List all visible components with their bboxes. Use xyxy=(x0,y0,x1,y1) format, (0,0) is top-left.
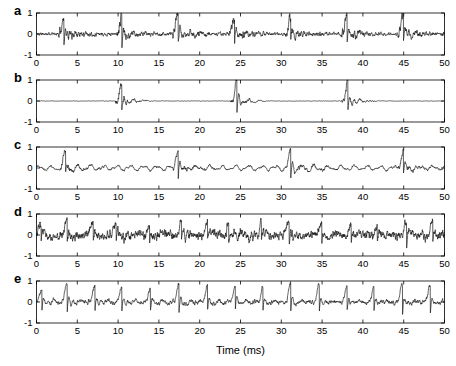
xtick-label-b-6: 30 xyxy=(276,124,287,135)
ytick-label-a-1: 0 xyxy=(27,28,32,39)
panel-letter-b: b xyxy=(14,70,22,85)
panel-b: 05101520253035404550-101b xyxy=(14,70,450,135)
panel-letter-e: e xyxy=(14,271,21,286)
ytick-label-b-0: -1 xyxy=(24,116,32,127)
xtick-label-d-4: 20 xyxy=(194,258,205,269)
signal-trace-d xyxy=(37,218,445,248)
xtick-label-c-10: 50 xyxy=(439,191,450,202)
panel-d: 05101520253035404550-101d xyxy=(14,204,450,269)
xtick-label-d-7: 35 xyxy=(317,258,328,269)
xtick-label-c-8: 40 xyxy=(358,191,369,202)
xtick-label-d-0: 0 xyxy=(34,258,39,269)
xtick-label-d-6: 30 xyxy=(276,258,287,269)
xtick-label-c-7: 35 xyxy=(317,191,328,202)
xtick-label-b-9: 45 xyxy=(398,124,409,135)
ytick-label-e-1: 0 xyxy=(27,296,32,307)
xtick-label-b-7: 35 xyxy=(317,124,328,135)
signal-trace-e xyxy=(37,282,445,315)
ytick-label-a-2: 1 xyxy=(27,7,32,18)
xtick-label-c-4: 20 xyxy=(194,191,205,202)
xtick-label-b-2: 10 xyxy=(113,124,124,135)
signal-trace-c xyxy=(37,148,445,178)
ytick-label-e-2: 1 xyxy=(27,275,32,286)
xtick-label-e-5: 25 xyxy=(235,325,246,336)
panel-letter-c: c xyxy=(14,137,21,152)
xtick-label-d-3: 15 xyxy=(154,258,165,269)
xtick-label-c-6: 30 xyxy=(276,191,287,202)
signal-trace-b xyxy=(37,80,445,112)
xtick-label-d-8: 40 xyxy=(358,258,369,269)
x-axis-title: Time (ms) xyxy=(216,344,265,356)
panel-letter-d: d xyxy=(14,204,22,219)
xtick-label-e-8: 40 xyxy=(358,325,369,336)
xtick-label-b-3: 15 xyxy=(154,124,165,135)
ytick-label-c-2: 1 xyxy=(27,141,32,152)
xtick-label-a-3: 15 xyxy=(154,57,165,68)
xtick-label-b-10: 50 xyxy=(439,124,450,135)
xtick-label-a-0: 0 xyxy=(34,57,39,68)
xtick-label-a-1: 5 xyxy=(75,57,80,68)
panel-letter-a: a xyxy=(14,3,22,18)
panel-e: 05101520253035404550-101e xyxy=(14,271,450,336)
xtick-label-e-4: 20 xyxy=(194,325,205,336)
xtick-label-c-1: 5 xyxy=(75,191,80,202)
xtick-label-e-7: 35 xyxy=(317,325,328,336)
ytick-label-c-0: -1 xyxy=(24,183,32,194)
ytick-label-d-1: 0 xyxy=(27,229,32,240)
xtick-label-a-2: 10 xyxy=(113,57,124,68)
xtick-label-e-2: 10 xyxy=(113,325,124,336)
xtick-label-c-2: 10 xyxy=(113,191,124,202)
xtick-label-b-1: 5 xyxy=(75,124,80,135)
ytick-label-b-2: 1 xyxy=(27,74,32,85)
xtick-label-e-0: 0 xyxy=(34,325,39,336)
xtick-label-e-9: 45 xyxy=(398,325,409,336)
xtick-label-a-10: 50 xyxy=(439,57,450,68)
xtick-label-b-0: 0 xyxy=(34,124,39,135)
ytick-label-d-2: 1 xyxy=(27,208,32,219)
xtick-label-a-5: 25 xyxy=(235,57,246,68)
xtick-label-c-0: 0 xyxy=(34,191,39,202)
xtick-label-d-9: 45 xyxy=(398,258,409,269)
signal-trace-a xyxy=(37,13,445,48)
xtick-label-d-5: 25 xyxy=(235,258,246,269)
xtick-label-a-9: 45 xyxy=(398,57,409,68)
signal-traces-figure: 05101520253035404550-101a051015202530354… xyxy=(0,0,456,366)
xtick-label-e-3: 15 xyxy=(154,325,165,336)
panel-c: 05101520253035404550-101c xyxy=(14,137,450,202)
xtick-label-b-5: 25 xyxy=(235,124,246,135)
xtick-label-a-7: 35 xyxy=(317,57,328,68)
xtick-label-e-10: 50 xyxy=(439,325,450,336)
xtick-label-c-9: 45 xyxy=(398,191,409,202)
ytick-label-d-0: -1 xyxy=(24,250,32,261)
figure-root: 05101520253035404550-101a051015202530354… xyxy=(0,0,456,366)
panel-a: 05101520253035404550-101a xyxy=(14,3,450,68)
xtick-label-a-6: 30 xyxy=(276,57,287,68)
xtick-label-b-8: 40 xyxy=(358,124,369,135)
xtick-label-d-2: 10 xyxy=(113,258,124,269)
xtick-label-a-8: 40 xyxy=(358,57,369,68)
xtick-label-a-4: 20 xyxy=(194,57,205,68)
xtick-label-e-1: 5 xyxy=(75,325,80,336)
xtick-label-d-1: 5 xyxy=(75,258,80,269)
xtick-label-d-10: 50 xyxy=(439,258,450,269)
ytick-label-c-1: 0 xyxy=(27,162,32,173)
ytick-label-a-0: -1 xyxy=(24,49,32,60)
xtick-label-c-5: 25 xyxy=(235,191,246,202)
xtick-label-e-6: 30 xyxy=(276,325,287,336)
xtick-label-b-4: 20 xyxy=(194,124,205,135)
xtick-label-c-3: 15 xyxy=(154,191,165,202)
ytick-label-b-1: 0 xyxy=(27,95,32,106)
ytick-label-e-0: -1 xyxy=(24,317,32,328)
